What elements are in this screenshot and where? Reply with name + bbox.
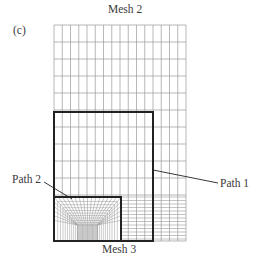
mesh-diagram bbox=[0, 0, 257, 263]
path-1-leader-line bbox=[153, 170, 218, 183]
